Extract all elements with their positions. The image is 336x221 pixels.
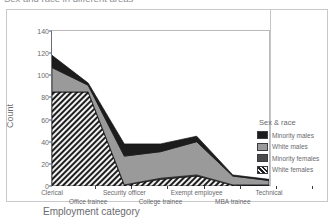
x-tick-label: Clerical — [41, 189, 63, 196]
legend-items: Minority malesWhite malesMinority female… — [257, 131, 336, 174]
x-axis-title: Employment category — [43, 206, 140, 217]
y-tick-label: 40 — [41, 138, 49, 145]
y-tick-label: 120 — [37, 50, 49, 57]
legend-label: Minority females — [272, 155, 319, 162]
y-tick-label: 140 — [37, 28, 49, 35]
legend-item[interactable]: Minority males — [257, 131, 336, 139]
y-tick-label: 100 — [37, 72, 49, 79]
chart-figure: Sex and race in different areas 02040608… — [0, 0, 336, 221]
legend-title: Sex & race — [259, 118, 336, 127]
legend-label: White males — [272, 143, 308, 150]
stacked-area-series — [52, 31, 269, 186]
legend: Sex & race Minority malesWhite malesMino… — [257, 118, 336, 177]
x-tick-label: Technical — [255, 189, 282, 196]
chart-title-clipped: Sex and race in different areas — [4, 0, 244, 3]
y-tick-label: 20 — [41, 160, 49, 167]
y-axis-title: Count — [5, 68, 15, 128]
legend-item[interactable]: White males — [257, 143, 336, 151]
x-tick-label: MBA trainee — [215, 198, 250, 205]
legend-swatch — [257, 166, 268, 174]
x-tick-label: Security officer — [103, 189, 146, 196]
y-tick-label: 60 — [41, 116, 49, 123]
legend-label: White females — [272, 166, 313, 173]
x-tick-label: College trainee — [139, 198, 183, 205]
plot-area — [52, 31, 269, 186]
y-tick-label: 80 — [41, 94, 49, 101]
x-tick-label: Exempt employee — [171, 189, 223, 196]
legend-swatch — [257, 131, 268, 139]
legend-item[interactable]: White females — [257, 166, 336, 174]
x-tick-label: Office trainee — [69, 198, 108, 205]
chart-title-text: Sex and race in different areas — [4, 0, 244, 3]
chart-card: 020406080100120140 Count ClericalOffice … — [6, 9, 328, 202]
legend-label: Minority males — [272, 132, 314, 139]
legend-item[interactable]: Minority females — [257, 154, 336, 162]
legend-swatch — [257, 143, 268, 151]
legend-swatch — [257, 154, 268, 162]
